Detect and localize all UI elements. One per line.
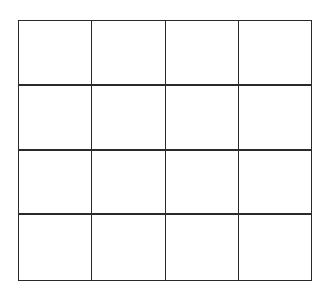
grid-cell-r3-c4 (239, 150, 311, 213)
grid-cell-r4-c3 (166, 215, 238, 279)
grid-cell-r3-c3 (166, 150, 238, 213)
grid-cell-r1-c1 (19, 21, 91, 85)
grid-cell-r4-c1 (19, 215, 91, 279)
grid-cell-r1-c3 (166, 21, 238, 85)
grid-cell-r4-c2 (92, 215, 164, 279)
grid-cell-r3-c2 (92, 150, 164, 213)
grid-cell-r1-c2 (92, 21, 164, 85)
grid-cell-r3-c1 (19, 150, 91, 213)
grid-cell-r2-c2 (92, 86, 164, 148)
grid-cell-r2-c1 (19, 86, 91, 148)
grid-cell-r2-c4 (239, 86, 311, 148)
four-by-four-grid (18, 20, 312, 281)
grid-cell-r1-c4 (239, 21, 311, 85)
grid-cell-r4-c4 (239, 215, 311, 279)
grid-cell-r2-c3 (166, 86, 238, 148)
